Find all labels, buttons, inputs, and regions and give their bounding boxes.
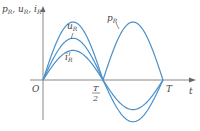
svg-text:pR: pR [107,13,118,24]
x-axis-arrow [189,78,196,83]
p-R-label: pR [107,13,119,29]
y-axis-label: pR, uR, iR [2,4,42,15]
x-axis-label: t [189,86,193,96]
p-R-curve [43,22,163,80]
u-R-label: uR [67,21,78,39]
i-R-label: iR [65,52,73,63]
svg-text:iR: iR [65,52,73,63]
origin-label: O [32,84,40,94]
tick-half-T-label: T 2 [92,84,100,103]
diagram: pR, uR, iR O t T T 2 pR uR iR [0,0,200,131]
svg-text:T: T [93,84,99,93]
tick-T-label: T [166,84,173,94]
svg-text:2: 2 [92,94,98,103]
